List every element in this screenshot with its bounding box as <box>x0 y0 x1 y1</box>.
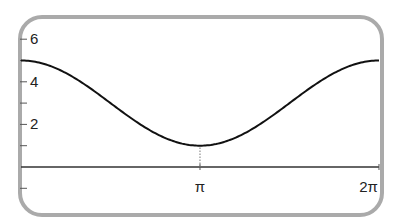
x-tick-label: 2π <box>359 178 378 195</box>
x-tick-label: π <box>195 178 205 195</box>
y-tick-label: 4 <box>30 73 38 90</box>
tick-labels: 642π2π <box>30 30 378 195</box>
y-tick-label: 6 <box>30 30 38 47</box>
curve-line <box>21 61 379 146</box>
cosine-chart: 642π2π <box>0 0 397 223</box>
y-tick-label: 2 <box>30 115 38 132</box>
ticks <box>20 39 379 188</box>
